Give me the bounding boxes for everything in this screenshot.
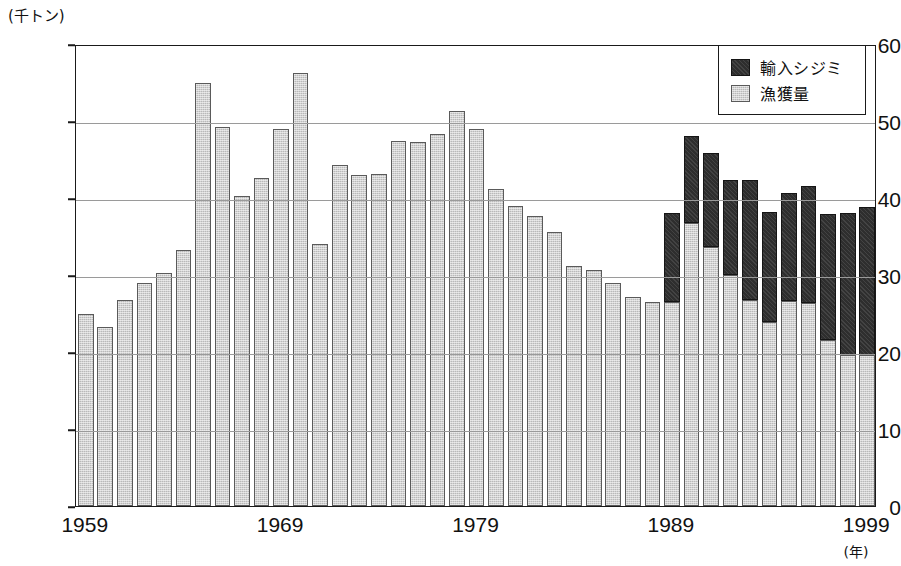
- bar-1978: [449, 44, 465, 506]
- bar-segment-catch-1995: [781, 301, 797, 506]
- bar-1971: [312, 44, 328, 506]
- bar-1984: [566, 44, 582, 506]
- y-axis-unit-label: (千トン): [8, 4, 65, 25]
- bar-1959: [78, 44, 94, 506]
- bar-1986: [605, 44, 621, 506]
- legend-label-catch: 漁獲量: [760, 81, 810, 105]
- bar-segment-catch-1973: [351, 175, 367, 506]
- bar-segment-catch-1992: [723, 275, 739, 506]
- x-axis-unit-label: (年): [844, 541, 869, 561]
- bar-segment-catch-1979: [469, 129, 485, 506]
- y-tick-mark-20: [68, 352, 75, 354]
- bar-segment-catch-1971: [312, 244, 328, 506]
- bar-segment-catch-1965: [195, 83, 211, 507]
- y-tick-label-40: 40: [835, 189, 901, 210]
- chart-container: (千トン) 0102030405060 19591969197919891999…: [0, 0, 901, 566]
- bar-1966: [215, 44, 231, 506]
- x-tick-label-1959: 1959: [61, 514, 108, 535]
- gridline-20: [76, 354, 875, 355]
- bar-segment-catch-1980: [488, 189, 504, 506]
- y-tick-mark-60: [68, 44, 75, 46]
- bar-segment-catch-1968: [254, 178, 270, 506]
- bar-segment-catch-1993: [742, 300, 758, 506]
- legend-label-imports: 輸入シジミ: [760, 55, 843, 79]
- bar-segment-catch-1974: [371, 174, 387, 506]
- bar-segment-catch-1996: [801, 303, 817, 506]
- bar-segment-catch-1966: [215, 127, 231, 506]
- x-tick-label-1999: 1999: [843, 514, 890, 535]
- bar-segment-catch-1990: [684, 223, 700, 506]
- bar-1987: [625, 44, 641, 506]
- gridline-50: [76, 123, 875, 124]
- chart-legend: 輸入シジミ 漁獲量: [718, 45, 866, 115]
- bar-segment-catch-1961: [117, 300, 133, 506]
- bar-segment-catch-1994: [762, 322, 778, 506]
- y-tick-label-30: 30: [835, 266, 901, 287]
- y-tick-mark-0: [68, 506, 75, 508]
- legend-item-imports: 輸入シジミ: [731, 54, 855, 80]
- bar-1972: [332, 44, 348, 506]
- bar-segment-catch-1989: [664, 302, 680, 506]
- bar-segment-imports-1993: [742, 180, 758, 300]
- bar-segment-catch-1972: [332, 165, 348, 506]
- y-tick-mark-30: [68, 275, 75, 277]
- bar-1976: [410, 44, 426, 506]
- bar-segment-catch-1970: [293, 73, 309, 506]
- bar-1982: [527, 44, 543, 506]
- bar-1963: [156, 44, 172, 506]
- y-tick-label-20: 20: [835, 343, 901, 364]
- bar-segment-catch-1997: [820, 340, 836, 506]
- bar-segment-catch-1967: [234, 196, 250, 506]
- bar-segment-imports-1989: [664, 213, 680, 302]
- bar-1983: [547, 44, 563, 506]
- bar-1980: [488, 44, 504, 506]
- bar-segment-catch-1959: [78, 314, 94, 507]
- bar-1967: [234, 44, 250, 506]
- bar-segment-catch-1984: [566, 266, 582, 506]
- bar-1979: [469, 44, 485, 506]
- legend-swatch-catch-icon: [731, 85, 750, 102]
- bar-1962: [137, 44, 153, 506]
- bar-segment-imports-1994: [762, 212, 778, 322]
- bar-1977: [430, 44, 446, 506]
- bar-1981: [508, 44, 524, 506]
- bar-1990: [684, 44, 700, 506]
- bar-segment-imports-1992: [723, 180, 739, 275]
- bar-segment-catch-1976: [410, 142, 426, 506]
- y-tick-mark-10: [68, 429, 75, 431]
- bar-1964: [176, 44, 192, 506]
- bar-1988: [645, 44, 661, 506]
- bar-segment-catch-1981: [508, 206, 524, 506]
- legend-item-catch: 漁獲量: [731, 80, 855, 106]
- bar-series-group: [76, 46, 875, 506]
- bar-1975: [391, 44, 407, 506]
- x-tick-label-1989: 1989: [648, 514, 695, 535]
- bar-segment-catch-1985: [586, 270, 602, 506]
- bar-segment-catch-1975: [391, 141, 407, 506]
- bar-segment-imports-1990: [684, 136, 700, 222]
- bar-segment-catch-1963: [156, 273, 172, 506]
- bar-1985: [586, 44, 602, 506]
- bar-1989: [664, 44, 680, 506]
- bar-1968: [254, 44, 270, 506]
- bar-1973: [351, 44, 367, 506]
- bar-1974: [371, 44, 387, 506]
- bar-segment-catch-1977: [430, 134, 446, 506]
- bar-segment-catch-1962: [137, 283, 153, 506]
- bar-segment-imports-1995: [781, 193, 797, 301]
- bar-segment-catch-1986: [605, 283, 621, 506]
- x-tick-label-1969: 1969: [257, 514, 304, 535]
- bar-segment-catch-1988: [645, 302, 661, 506]
- y-tick-mark-50: [68, 121, 75, 123]
- bar-1961: [117, 44, 133, 506]
- bar-segment-catch-1987: [625, 297, 641, 506]
- bar-segment-catch-1978: [449, 111, 465, 506]
- bar-1970: [293, 44, 309, 506]
- y-tick-mark-40: [68, 198, 75, 200]
- bar-segment-imports-1996: [801, 186, 817, 302]
- bar-1965: [195, 44, 211, 506]
- gridline-40: [76, 200, 875, 201]
- bar-1991: [703, 44, 719, 506]
- bar-1960: [97, 44, 113, 506]
- bar-1969: [273, 44, 289, 506]
